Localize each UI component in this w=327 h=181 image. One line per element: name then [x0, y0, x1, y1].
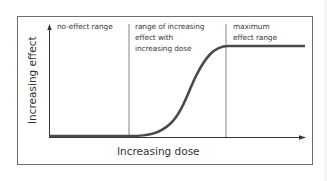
x-axis-label: Increasing dose	[117, 145, 200, 157]
x-axis-arrow-icon	[299, 135, 306, 139]
region-label-increasing-line3: increasing dose	[135, 44, 192, 55]
dose-response-curve	[49, 46, 305, 136]
region-label-no-effect: no-effect range	[57, 22, 113, 33]
region-label-increasing-line2: effect with	[135, 33, 173, 44]
y-axis-label: Increasing effect	[26, 36, 38, 124]
region-label-maximum-line1: maximum	[233, 22, 270, 33]
region-label-increasing-line1: range of increasing	[135, 22, 204, 33]
region-label-maximum-line2: effect range	[233, 33, 277, 44]
y-axis-arrow-icon	[47, 24, 51, 30]
